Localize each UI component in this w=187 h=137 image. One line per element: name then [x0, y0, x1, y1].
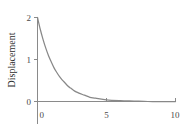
x-tick-label-5: 5	[104, 110, 109, 120]
chart-figure: 2 1 0 0 5 10 Displacement	[0, 0, 187, 137]
y-tick-label-2: 2	[27, 13, 32, 23]
x-tick-label-10: 10	[171, 110, 181, 120]
y-tick-label-1: 1	[27, 55, 32, 65]
x-tick-label-0: 0	[40, 110, 45, 120]
y-tick-label-0: 0	[27, 97, 32, 107]
displacement-curve	[38, 18, 176, 102]
displacement-plot: 2 1 0 0 5 10 Displacement	[0, 0, 187, 137]
y-axis-title: Displacement	[6, 32, 17, 87]
